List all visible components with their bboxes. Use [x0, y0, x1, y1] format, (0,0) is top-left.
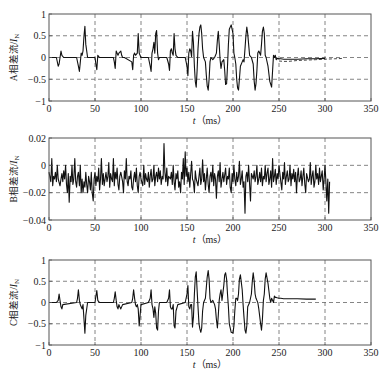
x-tick-label: 100: [134, 222, 149, 233]
x-tick-label: 150: [180, 222, 195, 233]
x-tick-label: 250: [272, 347, 287, 358]
x-tick-label: 50: [90, 347, 100, 358]
y-tick-label: 0.5: [34, 30, 47, 41]
x-tick-label: 0: [47, 103, 52, 114]
x-tick-label: 250: [272, 222, 287, 233]
x-tick-label: 350: [364, 222, 379, 233]
chart-b-phase: 050100150200250300350−0.04−0.0200.02t（ms…: [8, 133, 379, 246]
x-tick-label: 50: [90, 103, 100, 114]
y-tick-label: −0.5: [28, 318, 46, 329]
x-tick-label: 300: [318, 347, 333, 358]
x-tick-label: 0: [47, 222, 52, 233]
y-axis-label: A相差流/IN: [8, 34, 21, 82]
x-axis-label: t（ms）: [193, 115, 227, 126]
y-axis-label: B相差流/IN: [8, 155, 21, 202]
y-tick-label: 0: [41, 297, 46, 308]
y-tick-label: 0: [41, 160, 46, 171]
chart-c-phase: 050100150200250300350−1−0.500.51t（ms）C相差…: [8, 255, 379, 371]
x-tick-label: 200: [226, 347, 241, 358]
x-tick-label: 200: [226, 222, 241, 233]
y-tick-label: −0.02: [23, 187, 46, 198]
y-tick-label: −0.5: [28, 74, 46, 85]
x-tick-label: 50: [90, 222, 100, 233]
y-tick-label: 1: [41, 255, 46, 266]
b-phase-series-0: [49, 144, 330, 214]
figure: 050100150200250300350−1−0.500.51t（ms）A相差…: [0, 0, 390, 384]
x-tick-label: 300: [318, 222, 333, 233]
grid-lines: [49, 260, 371, 345]
figure-canvas: 050100150200250300350−1−0.500.51t（ms）A相差…: [0, 0, 390, 384]
y-tick-label: −1: [35, 340, 46, 351]
x-tick-label: 150: [180, 103, 195, 114]
y-tick-label: 0.02: [29, 133, 47, 144]
x-axis-label: t（ms）: [193, 359, 227, 370]
x-tick-label: 350: [364, 103, 379, 114]
y-tick-label: −1: [35, 96, 46, 107]
y-tick-label: −0.04: [23, 215, 46, 226]
x-tick-label: 200: [226, 103, 241, 114]
x-tick-label: 250: [272, 103, 287, 114]
x-axis-label: t（ms）: [193, 234, 227, 245]
y-axis-label: C相差流/IN: [8, 279, 21, 326]
x-tick-label: 150: [180, 347, 195, 358]
y-tick-label: 0.5: [34, 276, 47, 287]
y-tick-label: 0: [41, 52, 46, 63]
y-tick-label: 1: [41, 9, 46, 20]
x-tick-label: 300: [318, 103, 333, 114]
x-tick-label: 0: [47, 347, 52, 358]
x-tick-label: 100: [134, 347, 149, 358]
x-tick-label: 350: [364, 347, 379, 358]
chart-a-phase: 050100150200250300350−1−0.500.51t（ms）A相差…: [8, 9, 379, 127]
x-tick-label: 100: [134, 103, 149, 114]
